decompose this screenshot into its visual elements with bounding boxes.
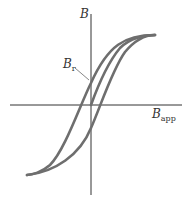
y-axis-label: B [80,8,89,20]
remanence-label: Br [63,58,76,70]
initial-magnetization-curve [91,35,155,105]
hysteresis-diagram [0,0,190,203]
x-axis-label: Bapp [152,108,176,120]
remanence-label-sub: r [72,64,76,73]
remanence-leader [75,68,89,80]
x-axis-label-sub: app [161,114,176,123]
remanence-label-main: B [63,57,72,71]
x-axis-label-main: B [152,107,161,121]
